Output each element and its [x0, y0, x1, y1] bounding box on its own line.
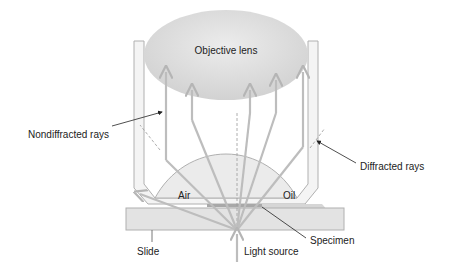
diffracted-leader	[317, 141, 356, 163]
air-label: Air	[178, 190, 191, 201]
slide-label: Slide	[137, 246, 160, 257]
diffracted-rays-label: Diffracted rays	[360, 161, 424, 172]
light-source-label: Light source	[244, 246, 299, 257]
oil-label: Oil	[283, 190, 295, 201]
specimen-label: Specimen	[310, 235, 354, 246]
nondiffracted-rays-label: Nondiffracted rays	[28, 129, 109, 140]
microscope-diagram: Objective lens Nondiffracted rays Diffra…	[0, 0, 452, 271]
specimen	[207, 204, 262, 207]
front-lens	[155, 154, 297, 198]
objective-lens-label: Objective lens	[195, 45, 258, 56]
